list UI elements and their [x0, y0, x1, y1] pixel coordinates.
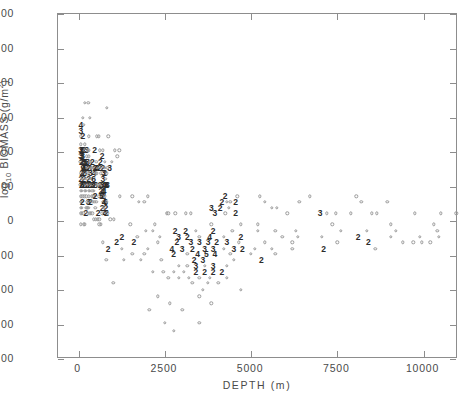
data-point-marker [263, 200, 266, 203]
data-point-count-marker: 2 [219, 268, 224, 277]
x-tick-label: 2500 [151, 362, 178, 374]
data-point-marker [137, 200, 140, 203]
data-point-marker [256, 229, 259, 232]
data-point-marker [320, 235, 323, 238]
y-tick-left [58, 290, 64, 291]
data-point-count-marker: 2 [119, 232, 124, 241]
data-point-marker [201, 288, 204, 291]
y-tick-right [450, 290, 456, 291]
data-point-marker [227, 206, 230, 209]
data-point-marker [168, 301, 171, 304]
x-tick-label: 7500 [323, 362, 350, 374]
data-point-marker [249, 252, 252, 255]
y-tick-left [58, 14, 64, 15]
data-point-marker [355, 194, 358, 197]
data-point-marker [374, 247, 377, 250]
y-tick-label: 1.00 [0, 180, 14, 192]
data-point-marker [186, 264, 189, 267]
y-tick-label: 4.00 [0, 76, 14, 88]
data-point-marker [158, 235, 161, 238]
data-point-marker [455, 212, 458, 215]
data-point-marker [156, 241, 159, 244]
data-point-count-marker: 2 [202, 268, 207, 277]
y-tick-label: 3.00 [0, 111, 14, 123]
data-point-marker [270, 206, 273, 209]
data-point-marker [116, 154, 119, 157]
data-point-marker [222, 247, 225, 250]
data-point-marker [167, 276, 170, 279]
data-point-marker [160, 258, 163, 261]
x-tick-bottom [251, 351, 252, 357]
data-point-count-marker: 2 [194, 268, 199, 277]
data-point-count-marker: 4 [213, 250, 218, 259]
data-point-count-marker: 2 [238, 232, 243, 241]
data-point-marker [172, 270, 175, 273]
y-tick-left [58, 325, 64, 326]
scatter-plot-figure: log10 BIOMASS (g/m2) DEPTH (m) 6.005.004… [0, 0, 476, 397]
y-tick-right [450, 83, 456, 84]
data-point-marker [198, 295, 201, 298]
x-tick-top [79, 14, 80, 20]
y-tick-right [450, 221, 456, 222]
data-point-marker [143, 200, 146, 203]
data-point-marker [206, 281, 209, 284]
y-tick-label: 2.00 [0, 145, 14, 157]
data-point-marker [325, 212, 328, 215]
x-tick-bottom [79, 351, 80, 357]
data-point-count-marker: 3 [180, 244, 185, 253]
y-tick-label: -4.00 [0, 352, 14, 364]
data-point-marker [270, 247, 273, 250]
data-point-marker [87, 135, 90, 138]
data-point-marker [258, 194, 261, 197]
data-point-count-marker: 2 [366, 238, 371, 247]
data-point-marker [437, 235, 440, 238]
data-point-marker [177, 264, 180, 267]
data-point-marker [98, 218, 101, 221]
data-point-marker [360, 200, 363, 203]
y-tick-label: 6.00 [0, 7, 14, 19]
data-point-marker [139, 258, 142, 261]
data-point-count-marker: 3 [231, 244, 236, 253]
data-point-marker [253, 247, 256, 250]
data-point-marker [187, 276, 190, 279]
data-point-marker [172, 329, 175, 332]
data-point-marker [146, 247, 149, 250]
data-point-marker [146, 194, 149, 197]
data-point-marker [105, 172, 108, 175]
data-point-marker [298, 200, 301, 203]
data-point-marker [375, 212, 378, 215]
data-point-marker [296, 235, 299, 238]
data-point-marker [143, 252, 146, 255]
data-point-marker [182, 270, 185, 273]
y-tick-right [450, 49, 456, 50]
data-point-marker [339, 229, 342, 232]
data-point-marker [122, 258, 125, 261]
data-point-marker [411, 241, 414, 244]
data-point-marker [198, 321, 201, 324]
data-point-count-marker: 3 [225, 238, 230, 247]
data-point-count-marker: 2 [321, 244, 326, 253]
data-point-marker [161, 270, 164, 273]
data-point-marker [210, 301, 213, 304]
data-point-count-marker: 2 [218, 204, 223, 213]
y-tick-right [450, 359, 456, 360]
data-point-marker [349, 212, 352, 215]
data-point-marker [230, 229, 233, 232]
data-point-marker [130, 194, 133, 197]
data-point-marker [286, 212, 289, 215]
data-point-count-marker: 3 [200, 255, 205, 264]
data-point-marker [120, 247, 123, 250]
data-point-marker [87, 149, 90, 152]
data-point-marker [107, 135, 110, 138]
data-point-marker [429, 241, 432, 244]
data-point-marker [336, 241, 339, 244]
x-tick-label: 10000 [406, 362, 439, 374]
data-point-count-marker: 2 [240, 244, 245, 253]
data-point-marker [334, 212, 337, 215]
data-point-marker [81, 116, 84, 119]
data-point-marker [294, 229, 297, 232]
data-point-marker [151, 270, 154, 273]
data-point-marker [225, 264, 228, 267]
data-point-count-marker: 2 [80, 132, 85, 141]
data-point-marker [308, 194, 311, 197]
